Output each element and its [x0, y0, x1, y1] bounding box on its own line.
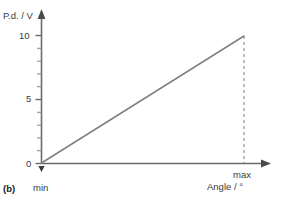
- panel-label: (b): [3, 184, 15, 194]
- y-axis-arrowhead: [38, 9, 46, 19]
- x-axis-arrowhead: [261, 160, 271, 168]
- x-axis-title: Angle / °: [207, 182, 243, 192]
- y-tick-label-0: 0: [26, 159, 31, 169]
- y-tick-label-5: 5: [26, 94, 31, 104]
- y-axis-major-ticks: [36, 36, 42, 164]
- figure-panel-b: P.d. / V 10 5 0 min max Angle / ° (b): [0, 0, 281, 200]
- x-tick-label-min: min: [33, 183, 48, 193]
- data-line-series-1: [42, 36, 245, 163]
- y-tick-label-10: 10: [19, 31, 30, 41]
- min-origin-marker-icon: [38, 166, 44, 172]
- x-tick-label-max: max: [233, 170, 251, 180]
- y-axis-title: P.d. / V: [3, 11, 33, 21]
